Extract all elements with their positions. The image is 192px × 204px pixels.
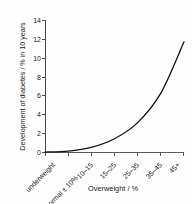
x-tick-mark — [137, 153, 138, 156]
x-tick-label-15-25: 15–25 — [95, 161, 118, 184]
y-tick-label: 10 — [25, 55, 41, 62]
y-tick-label: 2 — [25, 130, 41, 137]
plot-area — [45, 20, 183, 152]
x-tick-mark — [68, 153, 69, 156]
curve-path — [45, 42, 184, 152]
x-tick-label-35-45: 35–45 — [141, 161, 164, 184]
x-tick-mark — [183, 153, 184, 156]
x-tick-mark — [45, 153, 46, 156]
x-tick-mark — [160, 153, 161, 156]
y-tick-label: 14 — [25, 17, 41, 24]
y-tick-label: 0 — [25, 149, 41, 156]
chart-figure: Development of diabetes / % in 10 years … — [0, 0, 192, 204]
x-tick-mark — [114, 153, 115, 156]
x-tick-mark — [91, 153, 92, 156]
diabetes-curve — [45, 20, 184, 153]
x-axis-title: Overweight / % — [88, 184, 138, 193]
x-tick-label-25-35: 25–35 — [118, 161, 141, 184]
y-tick-label: 12 — [25, 36, 41, 43]
y-tick-label: 8 — [25, 74, 41, 81]
x-tick-label-10-15: 10–15 — [72, 161, 95, 184]
y-tick-label: 6 — [25, 92, 41, 99]
x-tick-label-45plus: 45+ — [163, 161, 181, 179]
y-tick-label: 4 — [25, 111, 41, 118]
